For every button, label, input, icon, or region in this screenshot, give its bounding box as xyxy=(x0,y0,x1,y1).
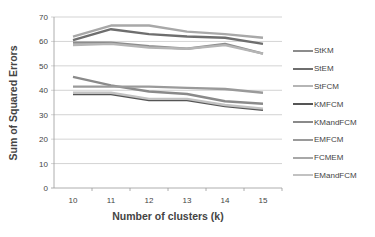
x-tick-label: 15 xyxy=(259,196,268,205)
legend-item-fcmem: FCMEM xyxy=(293,149,357,167)
legend-item-stkm: StKM xyxy=(293,42,357,60)
legend-label: StFCM xyxy=(314,82,339,91)
legend-swatch xyxy=(293,174,313,176)
legend-label: EMFCM xyxy=(314,135,343,144)
x-tick-label: 12 xyxy=(145,196,154,205)
y-axis-title: Sum of Squared Errors xyxy=(7,45,19,160)
legend-label: KMandFCM xyxy=(314,118,357,127)
y-tick-label: 10 xyxy=(39,160,48,169)
y-tick-label: 60 xyxy=(39,37,48,46)
legend-item-kmfcm: KMFCM xyxy=(293,95,357,113)
x-tick-label: 14 xyxy=(221,196,230,205)
y-tick-label: 50 xyxy=(39,62,48,71)
legend-label: StKM xyxy=(314,46,334,55)
legend-label: KMFCM xyxy=(314,100,343,109)
x-tick-label: 13 xyxy=(183,196,192,205)
y-tick-label: 30 xyxy=(39,111,48,120)
legend-swatch xyxy=(293,103,313,105)
legend-label: EMandFCM xyxy=(314,171,357,180)
y-tick-label: 20 xyxy=(39,135,48,144)
y-tick-label: 70 xyxy=(39,13,48,22)
legend-item-kmandfcm: KMandFCM xyxy=(293,113,357,131)
legend-item-emandfcm: EMandFCM xyxy=(293,167,357,185)
legend-item-stem: StEM xyxy=(293,60,357,78)
x-tick-label: 10 xyxy=(69,196,78,205)
x-tick-label: 11 xyxy=(107,196,116,205)
series-lines xyxy=(73,26,263,110)
legend-swatch xyxy=(293,139,313,141)
legend-swatch xyxy=(293,85,313,87)
legend-swatch xyxy=(293,50,313,52)
x-axis-ticks: 101112131415 xyxy=(69,188,282,205)
legend-label: StEM xyxy=(314,64,334,73)
legend-swatch xyxy=(293,121,313,123)
legend-swatch xyxy=(293,68,313,70)
legend-label: FCMEM xyxy=(314,153,343,162)
y-tick-label: 40 xyxy=(39,86,48,95)
y-axis-ticks: 010203040506070 xyxy=(39,13,48,193)
y-tick-label: 0 xyxy=(44,184,49,193)
legend: StKMStEMStFCMKMFCMKMandFCMEMFCMFCMEMEMan… xyxy=(293,42,357,184)
legend-item-emfcm: EMFCM xyxy=(293,131,357,149)
x-axis-title: Number of clusters (k) xyxy=(112,210,223,222)
legend-item-stfcm: StFCM xyxy=(293,78,357,96)
legend-swatch xyxy=(293,157,313,159)
